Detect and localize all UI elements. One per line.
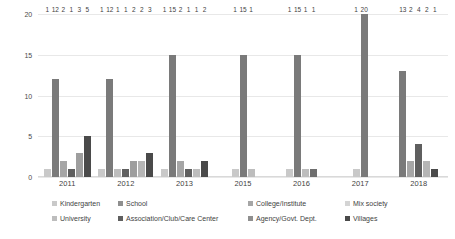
bar[interactable]: 1 (114, 169, 121, 177)
legend-row-2: UniversityAssociation/Club/Care CenterAg… (0, 215, 455, 229)
bar-wrapper: 12 (52, 14, 59, 177)
bar[interactable]: 2 (130, 161, 137, 177)
bar[interactable]: 1 (161, 169, 168, 177)
bar[interactable]: 3 (146, 153, 153, 177)
bar[interactable]: 1 (310, 169, 317, 177)
bar-wrapper: 2 (138, 14, 145, 177)
bar[interactable]: 1 (44, 169, 51, 177)
bar[interactable]: 1 (185, 169, 192, 177)
bar-group: 1152112 (155, 14, 214, 177)
bar-value-label: 2 (425, 7, 429, 14)
bar-value-label: 1 (304, 7, 308, 14)
bar-group: 120 (331, 14, 390, 177)
legend-item[interactable]: College/Institute (248, 200, 306, 207)
bar-wrapper: 15 (294, 14, 301, 177)
bar[interactable]: 12 (106, 79, 113, 177)
bar-wrapper: 1 (248, 14, 255, 177)
bar[interactable]: 2 (407, 161, 414, 177)
bar-wrapper: 1 (431, 14, 438, 177)
bar-value-label: 20 (361, 7, 368, 14)
bar[interactable]: 1 (248, 169, 255, 177)
bar[interactable]: 13 (399, 71, 406, 177)
bar[interactable]: 1 (193, 169, 200, 177)
legend-item[interactable]: Association/Club/Care Center (118, 215, 218, 222)
bar-value-label: 3 (77, 7, 81, 14)
legend-swatch-icon (248, 216, 253, 221)
bar-value-label: 1 (100, 7, 104, 14)
y-axis-tick-label: 15 (25, 51, 32, 58)
x-axis-tick-label: 2018 (389, 179, 448, 193)
bar[interactable]: 2 (138, 161, 145, 177)
y-axis-tick-label: 20 (25, 11, 32, 18)
legend-item[interactable]: Kindergarten (52, 200, 100, 207)
bar-value-label: 2 (132, 7, 136, 14)
bar-wrapper: 3 (146, 14, 153, 177)
legend-swatch-icon (248, 201, 253, 206)
bar-value-label: 15 (169, 7, 176, 14)
bar[interactable]: 4 (415, 144, 422, 177)
legend-label: Villages (353, 215, 377, 222)
bar[interactable]: 12 (52, 79, 59, 177)
bar[interactable]: 1 (431, 169, 438, 177)
bar-wrapper: 2 (130, 14, 137, 177)
y-axis-tick-label: 10 (25, 92, 32, 99)
bar[interactable]: 1 (122, 169, 129, 177)
bar-value-label: 1 (195, 7, 199, 14)
legend-swatch-icon (345, 201, 350, 206)
legend-item[interactable]: Agency/Govt. Dept. (248, 215, 317, 222)
bar-group: 11211223 (97, 14, 156, 177)
bar[interactable]: 1 (232, 169, 239, 177)
bar[interactable]: 2 (201, 161, 208, 177)
bar-groups: 1122135112112231152112115111511120132421 (38, 14, 448, 177)
bar-chart: 05101520 1122135112112231152112115111511… (0, 0, 455, 239)
legend-item[interactable]: University (52, 215, 91, 222)
y-axis-tick-label: 0 (28, 174, 32, 181)
bar[interactable]: 5 (84, 136, 91, 177)
bar-value-label: 2 (61, 7, 65, 14)
bar-value-label: 1 (233, 7, 237, 14)
bar-wrapper: 2 (201, 14, 208, 177)
legend-label: Mix society (353, 200, 388, 207)
bar-value-label: 1 (124, 7, 128, 14)
bar[interactable]: 1 (68, 169, 75, 177)
bar-value-label: 12 (106, 7, 113, 14)
bar[interactable]: 3 (76, 153, 83, 177)
legend-swatch-icon (345, 216, 350, 221)
bar-wrapper: 2 (407, 14, 414, 177)
plot-area: 05101520 1122135112112231152112115111511… (38, 14, 448, 177)
x-axis-tick-label: 2015 (214, 179, 273, 193)
legend-label: Agency/Govt. Dept. (256, 215, 317, 222)
bar-value-label: 1 (116, 7, 120, 14)
legend-label: School (126, 200, 147, 207)
bar-group: 11511 (272, 14, 331, 177)
bar[interactable]: 2 (423, 161, 430, 177)
bar[interactable]: 15 (240, 55, 247, 177)
bar-wrapper: 1 (68, 14, 75, 177)
bar-wrapper: 2 (177, 14, 184, 177)
bar-wrapper: 1 (44, 14, 51, 177)
x-axis-labels: 2011201220132015201620172018 (38, 179, 448, 193)
bar-group: 1151 (214, 14, 273, 177)
bar[interactable]: 15 (169, 55, 176, 177)
bar-wrapper: 1 (122, 14, 129, 177)
bar-wrapper: 1 (98, 14, 105, 177)
bar-value-label: 15 (239, 7, 246, 14)
bar[interactable]: 1 (302, 169, 309, 177)
bar[interactable]: 20 (361, 14, 368, 177)
bar-wrapper: 1 (193, 14, 200, 177)
bar-value-label: 1 (288, 7, 292, 14)
bar-wrapper: 5 (84, 14, 91, 177)
legend-item[interactable]: Mix society (345, 200, 388, 207)
bar-wrapper: 1 (286, 14, 293, 177)
bar[interactable]: 2 (60, 161, 67, 177)
bar-value-label: 1 (249, 7, 253, 14)
bar[interactable]: 1 (98, 169, 105, 177)
legend-item[interactable]: Villages (345, 215, 377, 222)
bar-value-label: 1 (163, 7, 167, 14)
bar[interactable]: 1 (353, 169, 360, 177)
legend-swatch-icon (52, 201, 57, 206)
bar[interactable]: 2 (177, 161, 184, 177)
legend-item[interactable]: School (118, 200, 147, 207)
bar[interactable]: 1 (286, 169, 293, 177)
bar[interactable]: 15 (294, 55, 301, 177)
